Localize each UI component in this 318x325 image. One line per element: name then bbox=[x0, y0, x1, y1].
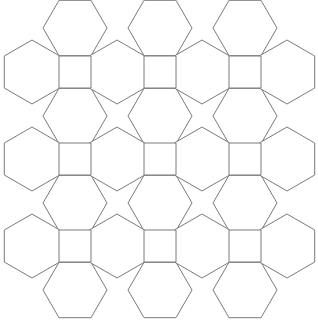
hexagon-pointy bbox=[89, 214, 144, 278]
hexagon-flat bbox=[43, 175, 107, 230]
hexagon-pointy bbox=[259, 214, 314, 278]
square bbox=[59, 230, 91, 262]
hexagon-pointy bbox=[174, 40, 229, 104]
square bbox=[229, 143, 261, 175]
hexagon-flat bbox=[213, 88, 277, 143]
tiling-diagram bbox=[0, 0, 318, 325]
hexagon-flat bbox=[43, 262, 107, 317]
hexagon-flat bbox=[128, 88, 192, 143]
hexagon-pointy bbox=[89, 127, 144, 191]
square bbox=[144, 230, 176, 262]
hexagon-pointy bbox=[174, 214, 229, 278]
square bbox=[229, 56, 261, 88]
hexagon-flat bbox=[213, 175, 277, 230]
hexagon-pointy bbox=[4, 40, 59, 104]
hexagon-pointy bbox=[4, 214, 59, 278]
hexagon-flat bbox=[43, 0, 107, 55]
hexagon-pointy bbox=[259, 127, 314, 191]
square bbox=[59, 143, 91, 175]
square bbox=[144, 143, 176, 175]
hexagon-flat bbox=[128, 262, 192, 317]
hexagon-pointy bbox=[89, 40, 144, 104]
hexagon-flat bbox=[213, 262, 277, 317]
hexagon-flat bbox=[213, 0, 277, 55]
hexagon-pointy bbox=[174, 127, 229, 191]
square bbox=[229, 230, 261, 262]
tiling-svg bbox=[0, 0, 318, 325]
hexagon-pointy bbox=[259, 40, 314, 104]
square bbox=[59, 56, 91, 88]
square bbox=[144, 56, 176, 88]
hexagon-flat bbox=[43, 88, 107, 143]
hexagon-flat bbox=[128, 0, 192, 55]
hexagon-flat bbox=[128, 175, 192, 230]
hexagon-pointy bbox=[4, 127, 59, 191]
